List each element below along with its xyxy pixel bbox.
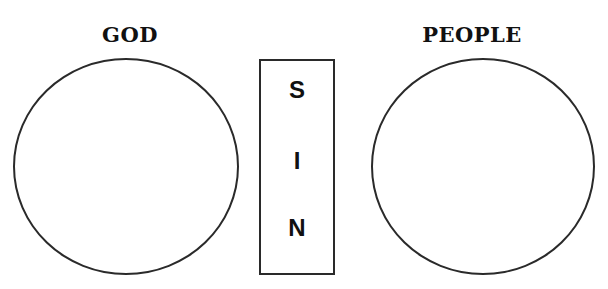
sin-letter-n: N — [261, 216, 333, 240]
people-label: PEOPLE — [392, 24, 552, 45]
sin-letter-s: S — [261, 78, 333, 102]
god-circle — [13, 58, 239, 275]
god-label: GOD — [60, 24, 200, 45]
people-circle — [371, 58, 595, 275]
sin-letter-i: I — [261, 149, 333, 173]
sin-barrier-box: S I N — [259, 59, 335, 275]
